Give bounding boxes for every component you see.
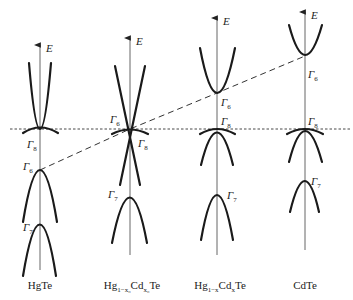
column-hgcdte-x: E Γ6 Γ8 Γ7 Hg1−xCdxTe xyxy=(194,15,246,294)
material-label-cdte: CdTe xyxy=(293,279,317,291)
column-hgte: E Γ8 Γ6 Γ7 HgTe xyxy=(22,42,58,291)
band-diagram: E Γ8 Γ6 Γ7 HgTe E Γ6 Γ8 Γ7 Hg1−x₀Cdx₀Te … xyxy=(0,0,353,300)
gamma8-light-hole-band xyxy=(289,131,322,162)
material-label-hgcdte-x: Hg1−xCdxTe xyxy=(194,279,246,294)
label-gamma7: Γ7 xyxy=(107,188,118,203)
column-cdte: E Γ6 Γ8 Γ7 CdTe xyxy=(287,9,323,291)
label-gamma8: Γ8 xyxy=(137,137,148,152)
label-gamma6: Γ6 xyxy=(22,160,33,175)
gamma8-heavy-hole-band xyxy=(23,128,58,134)
gamma6-conduction-band xyxy=(289,25,322,55)
label-gamma6: Γ6 xyxy=(220,96,231,111)
label-gamma6: Γ6 xyxy=(109,113,120,128)
material-label-hgcdte-x0: Hg1−x₀Cdx₀Te xyxy=(104,279,161,294)
material-label-hgte: HgTe xyxy=(28,279,52,291)
dirac-cone-branch-right xyxy=(120,66,145,185)
axis-label-e: E xyxy=(310,9,318,21)
axis-label-e: E xyxy=(45,42,53,54)
gamma6-conduction-band xyxy=(200,48,235,93)
label-gamma7: Γ7 xyxy=(226,189,237,204)
label-gamma8: Γ8 xyxy=(220,115,231,130)
label-gamma7: Γ7 xyxy=(22,221,33,236)
axis-label-e: E xyxy=(135,35,143,47)
column-hgcdte-x0: E Γ6 Γ8 Γ7 Hg1−x₀Cdx₀Te xyxy=(104,35,161,294)
axis-label-e: E xyxy=(222,15,230,27)
label-gamma6: Γ6 xyxy=(307,68,318,83)
label-gamma8: Γ8 xyxy=(307,115,318,130)
label-gamma8: Γ8 xyxy=(26,138,37,153)
gamma7-band xyxy=(112,198,147,244)
gamma6-trend-line xyxy=(40,56,305,170)
